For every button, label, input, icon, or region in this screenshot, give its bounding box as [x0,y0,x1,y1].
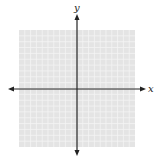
arrow-up-icon [75,14,80,20]
y-axis-label: y [73,2,80,13]
x-axis-label: x [148,83,154,94]
arrow-right-icon [140,87,146,92]
arrow-down-icon [75,150,80,156]
coordinate-plane: x y [0,0,158,159]
arrow-left-icon [8,87,14,92]
